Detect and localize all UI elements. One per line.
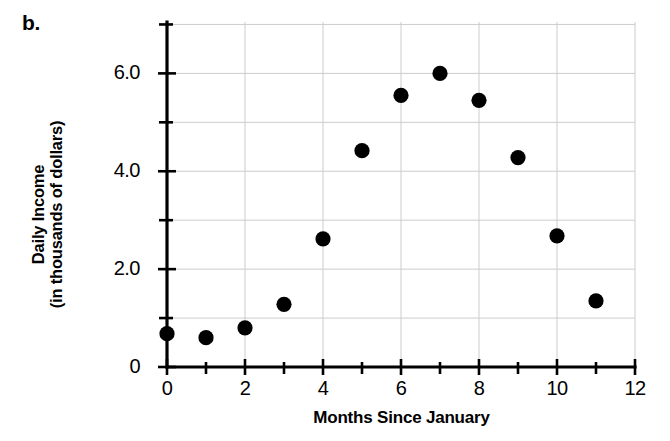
data-point — [198, 330, 213, 345]
data-point — [432, 66, 447, 81]
data-point — [237, 320, 252, 335]
data-point — [315, 231, 330, 246]
data-point — [393, 88, 408, 103]
grid-lines — [167, 22, 635, 367]
data-point — [510, 150, 525, 165]
data-point — [588, 293, 603, 308]
data-point — [549, 228, 564, 243]
data-point-markers — [159, 66, 603, 345]
data-point — [276, 297, 291, 312]
data-point — [159, 326, 174, 341]
figure-panel-b: b. Daily Income (in thousands of dollars… — [0, 0, 670, 441]
data-point — [354, 143, 369, 158]
scatter-plot-canvas — [0, 0, 670, 441]
data-point — [471, 93, 486, 108]
